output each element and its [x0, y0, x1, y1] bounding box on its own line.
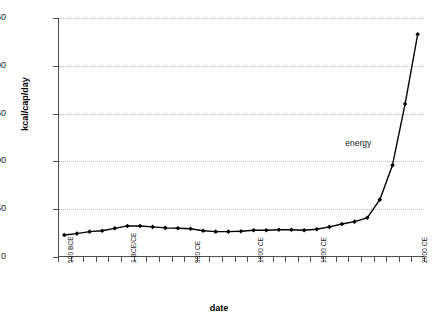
y-axis-tick-mark [53, 161, 58, 162]
x-axis-tick-mark [247, 257, 248, 262]
y-axis-tick-mark [53, 66, 58, 67]
x-axis-tick-mark [222, 257, 223, 262]
x-axis-tick-mark [108, 257, 109, 262]
x-axis-tick-mark [298, 257, 299, 262]
gridline [59, 18, 424, 19]
x-axis-tick-mark [310, 257, 311, 262]
y-axis-tick-label: 50 [0, 204, 6, 213]
x-axis-tick-mark [83, 257, 84, 262]
x-axis-tick-mark [58, 257, 59, 262]
y-axis-tick-label: 100 [0, 156, 6, 165]
x-axis-tick-mark [159, 257, 160, 262]
x-axis-tick-mark [121, 257, 122, 262]
x-axis-tick-mark [399, 257, 400, 262]
x-axis-tick-mark [348, 257, 349, 262]
y-axis-tick-mark [53, 18, 58, 19]
x-axis-tick-mark [209, 257, 210, 262]
x-axis-tick-mark [285, 257, 286, 262]
x-axis-tick-mark [172, 257, 173, 262]
gridline [59, 209, 424, 210]
x-axis-tick-label: 1500 CE [320, 237, 327, 263]
y-axis-tick-label: 0 [0, 252, 6, 261]
gridline [59, 114, 424, 115]
energy-per-capita-line-chart: 050100150200250 kcal/cap/day 500 BCE1 BC… [0, 0, 438, 324]
x-axis-tick-label: 1 BCE/CE [130, 233, 137, 263]
x-axis-tick-label: 500 BCE [67, 236, 74, 263]
y-axis-tick-mark [53, 209, 58, 210]
x-axis-title: date [0, 303, 438, 313]
x-axis-tick-mark [96, 257, 97, 262]
series-annotation-energy: energy [345, 138, 371, 148]
x-axis-tick-mark [184, 257, 185, 262]
x-axis-tick-label: 1000 CE [257, 237, 264, 263]
x-axis-tick-mark [235, 257, 236, 262]
x-axis-tick-mark [374, 257, 375, 262]
x-axis-tick-mark [411, 257, 412, 262]
y-axis-title: kcal/cap/day [20, 64, 30, 144]
gridline [59, 161, 424, 162]
y-axis-tick-label: 150 [0, 109, 6, 118]
y-axis-tick-label: 200 [0, 61, 6, 70]
gridline [59, 66, 424, 67]
x-axis-tick-mark [146, 257, 147, 262]
x-axis-tick-label: 2000 CE [421, 237, 428, 263]
x-axis-tick-mark [273, 257, 274, 262]
x-axis-tick-mark [386, 257, 387, 262]
y-axis-tick-mark [53, 114, 58, 115]
x-axis-tick-mark [336, 257, 337, 262]
x-axis-tick-label: 500 CE [194, 241, 201, 263]
y-axis-tick-label: 250 [0, 13, 6, 22]
x-axis-tick-mark [361, 257, 362, 262]
